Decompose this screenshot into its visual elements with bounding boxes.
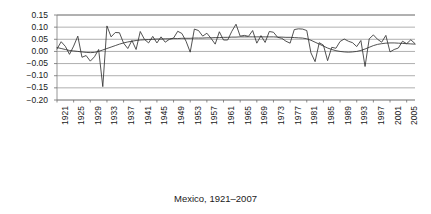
chart-figure: 0.150.100.050.00−0.05−0.10−0.15−0.20 192…	[0, 0, 431, 214]
y-axis-tick-label: 0.15	[8, 11, 48, 20]
x-axis-tick-label: 1965	[244, 106, 253, 125]
x-axis-tick-label: 1989	[344, 106, 353, 125]
x-axis-tick-label: 1993	[360, 106, 369, 125]
x-axis-tick-label: 1921	[61, 106, 70, 125]
gridlines	[57, 15, 415, 100]
x-axis-tick-label: 1981	[310, 106, 319, 125]
x-axis-tick-label: 1929	[94, 106, 103, 125]
x-axis-tick-label: 2001	[394, 106, 403, 125]
x-axis-tick-label: 1953	[194, 106, 203, 125]
x-axis-tick-label: 1949	[177, 106, 186, 125]
x-axis-tick-label: 1961	[227, 106, 236, 125]
y-axis-tick-label: −0.15	[8, 83, 48, 92]
y-axis-tick-label: −0.10	[8, 71, 48, 80]
chart-caption: Mexico, 1921–2007	[0, 193, 431, 204]
x-axis-tick-label: 1985	[327, 106, 336, 125]
y-axis-tick-label: −0.20	[8, 96, 48, 105]
x-axis-tick-label: 1973	[277, 106, 286, 125]
x-axis-tick-label: 1933	[110, 106, 119, 125]
y-axis-tick-label: 0.00	[8, 47, 48, 56]
x-axis-tick-label: 1937	[127, 106, 136, 125]
x-axis-tick-label: 1997	[377, 106, 386, 125]
x-axis-tick-label: 2005	[410, 106, 419, 125]
x-axis-tick-label: 1977	[294, 106, 303, 125]
x-axis-tick-label: 1969	[260, 106, 269, 125]
data-series	[57, 24, 415, 86]
y-axis-tick-label: −0.05	[8, 59, 48, 68]
x-axis-tick-label: 1957	[210, 106, 219, 125]
x-axis-tick-label: 1925	[77, 106, 86, 125]
y-axis-tick-label: 0.05	[8, 35, 48, 44]
x-axis-tick-label: 1941	[144, 106, 153, 125]
plot-frame	[57, 15, 415, 100]
series-line-annual-growth-rate	[57, 24, 415, 86]
x-axis-tick-label: 1945	[160, 106, 169, 125]
y-axis-tick-label: 0.10	[8, 23, 48, 32]
